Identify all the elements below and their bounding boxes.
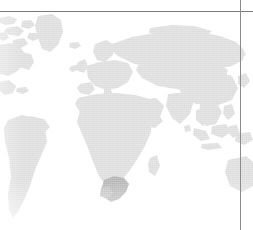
right-border-rule (240, 0, 241, 230)
world-map-layer (0, 0, 253, 230)
land-sri-lanka (184, 125, 191, 132)
top-border-rule (0, 11, 253, 12)
world-map-graphic (0, 0, 253, 230)
world-map-figure (0, 0, 253, 230)
